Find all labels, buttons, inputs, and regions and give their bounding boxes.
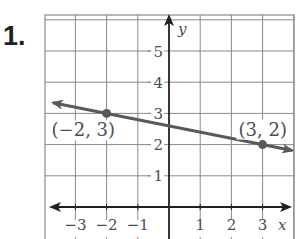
y-axis-label: y	[177, 20, 187, 38]
y-tick-label: 2	[153, 136, 163, 154]
x-tick-label: 2	[227, 216, 237, 234]
point-dot	[258, 140, 267, 149]
x-tick-label: 3	[258, 216, 268, 234]
y-tick-label: 1	[153, 167, 163, 185]
x-tick-label: 1	[195, 216, 205, 234]
point-label: (3, 2)	[239, 119, 287, 140]
point-dot	[102, 109, 111, 118]
point-label: (−2, 3)	[52, 119, 115, 140]
y-tick-label: 4	[153, 74, 163, 92]
x-tick-label: −1	[127, 216, 149, 234]
y-tick-label: 3	[153, 105, 163, 123]
graph-figure: 1. xy−3−2−112312345 (−2, 3)(3, 2)	[0, 0, 303, 239]
x-tick-label: −2	[96, 216, 118, 234]
x-tick-label: −3	[64, 216, 86, 234]
y-tick-label: 5	[153, 43, 163, 61]
coordinate-plane: xy−3−2−112312345 (−2, 3)(3, 2)	[0, 0, 303, 239]
x-axis-label: x	[278, 216, 287, 234]
